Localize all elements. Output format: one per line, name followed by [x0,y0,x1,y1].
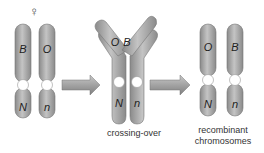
female-symbol: ♀ [26,5,42,19]
parental-chromosome-2: O n [39,24,55,118]
recombinant-label-line2: chromosomes [183,136,263,146]
gene-label: n [232,98,238,110]
gene-label: N [204,98,212,110]
centromere-icon [114,77,125,88]
gene-label: N [19,101,27,113]
arrow-right-icon [62,75,100,95]
recombinant-chromosome-1: O N [200,24,216,116]
crossing-over-label: crossing-over [96,128,172,138]
centromere-icon [132,77,143,88]
recombinant-chromosome-2: B n [227,24,243,116]
gene-label: N [115,97,123,109]
parental-chromosome-1: B N [15,24,31,118]
recombinant-label-line1: recombinant [183,125,263,135]
centromere-icon [230,75,241,86]
crossing-over-chromosomes: O B N n [95,16,158,124]
gene-label: O [43,43,52,55]
gene-label: B [19,43,26,55]
centromere-icon [18,80,29,91]
centromere-icon [42,80,53,91]
gene-label: B [231,41,238,53]
gene-label: O [111,36,120,48]
gene-label: B [123,36,130,48]
gene-label: n [44,101,50,113]
centromere-icon [203,75,214,86]
arrow-right-icon [150,75,190,95]
gene-label: O [204,41,213,53]
gene-label: n [134,97,140,109]
